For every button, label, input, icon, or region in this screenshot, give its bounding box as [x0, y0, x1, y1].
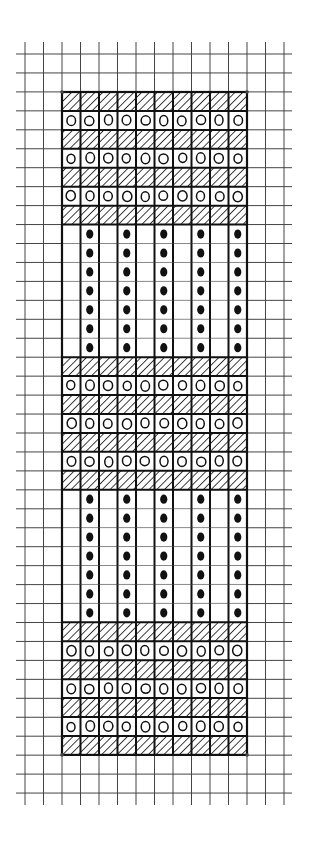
filled-dot-icon — [123, 514, 130, 523]
hatch-cell — [62, 357, 81, 376]
hatch-cell — [99, 471, 118, 490]
filled-dot-icon — [197, 343, 204, 352]
hatch-cell — [210, 660, 229, 679]
corner-marker — [60, 90, 64, 94]
filled-dot-icon — [197, 305, 204, 314]
filled-dot-icon — [234, 495, 241, 504]
hatch-cell — [81, 471, 100, 490]
hatch-cell — [155, 168, 174, 187]
filled-dot-icon — [123, 267, 130, 276]
filled-dot-icon — [123, 324, 130, 333]
filled-dot-icon — [197, 267, 204, 276]
hatch-cell — [192, 698, 211, 717]
hatch-cell — [173, 130, 192, 149]
filled-dot-icon — [160, 324, 167, 333]
stitch-chart — [0, 0, 310, 847]
hatch-cell — [118, 206, 137, 225]
hatch-cell — [229, 433, 248, 452]
filled-dot-icon — [197, 570, 204, 579]
hatch-cell — [62, 395, 81, 414]
hatch-cell — [173, 660, 192, 679]
hatch-cell — [136, 736, 155, 755]
hatch-cell — [118, 130, 137, 149]
hatch-cell — [62, 168, 81, 187]
filled-dot-icon — [123, 305, 130, 314]
hatch-cell — [210, 698, 229, 717]
filled-dot-icon — [123, 495, 130, 504]
filled-dot-icon — [160, 305, 167, 314]
filled-dot-icon — [197, 286, 204, 295]
hatch-cell — [155, 206, 174, 225]
hatch-cell — [81, 622, 100, 641]
hatch-cell — [229, 130, 248, 149]
filled-dot-icon — [160, 570, 167, 579]
filled-dot-icon — [197, 229, 204, 238]
hatch-cell — [173, 357, 192, 376]
hatch-cell — [62, 471, 81, 490]
hatch-cell — [210, 622, 229, 641]
filled-dot-icon — [86, 305, 93, 314]
hatch-cell — [155, 736, 174, 755]
hatch-cell — [192, 130, 211, 149]
hatch-cell — [229, 698, 248, 717]
hatch-cell — [62, 130, 81, 149]
hatch-cell — [99, 168, 118, 187]
filled-dot-icon — [234, 324, 241, 333]
filled-dot-icon — [234, 229, 241, 238]
hatch-cell — [192, 471, 211, 490]
hatch-cell — [192, 660, 211, 679]
hatch-cell — [136, 433, 155, 452]
hatch-cell — [192, 622, 211, 641]
filled-dot-icon — [160, 608, 167, 617]
hatch-cell — [210, 92, 229, 111]
hatch-cell — [229, 736, 248, 755]
hatch-cell — [229, 357, 248, 376]
corner-marker — [245, 90, 249, 94]
hatch-cell — [229, 395, 248, 414]
hatch-cell — [173, 698, 192, 717]
filled-dot-icon — [197, 248, 204, 257]
filled-dot-icon — [86, 324, 93, 333]
hatch-cell — [99, 433, 118, 452]
hatch-cell — [62, 736, 81, 755]
hatch-cell — [136, 130, 155, 149]
hatch-cell — [210, 433, 229, 452]
hatch-cell — [81, 433, 100, 452]
hatch-cell — [192, 736, 211, 755]
hatch-cell — [62, 92, 81, 111]
hatch-cell — [192, 357, 211, 376]
filled-dot-icon — [234, 532, 241, 541]
hatch-cell — [118, 395, 137, 414]
filled-dot-icon — [160, 286, 167, 295]
filled-dot-icon — [234, 514, 241, 523]
hatch-cell — [136, 698, 155, 717]
hatch-cell — [136, 395, 155, 414]
filled-dot-icon — [123, 589, 130, 598]
corner-marker — [245, 753, 249, 757]
corner-marker — [60, 753, 64, 757]
hatch-cell — [99, 395, 118, 414]
filled-dot-icon — [160, 495, 167, 504]
filled-dot-icon — [234, 305, 241, 314]
hatch-cell — [136, 357, 155, 376]
hatch-cell — [118, 698, 137, 717]
filled-dot-icon — [123, 608, 130, 617]
hatch-cell — [155, 660, 174, 679]
hatch-cell — [118, 357, 137, 376]
hatch-cell — [118, 433, 137, 452]
hatch-cell — [118, 92, 137, 111]
filled-dot-icon — [86, 267, 93, 276]
filled-dot-icon — [234, 248, 241, 257]
hatch-cell — [81, 698, 100, 717]
filled-dot-icon — [123, 248, 130, 257]
filled-dot-icon — [86, 343, 93, 352]
filled-dot-icon — [86, 229, 93, 238]
hatch-cell — [210, 357, 229, 376]
hatch-cell — [210, 130, 229, 149]
filled-dot-icon — [197, 514, 204, 523]
filled-dot-icon — [123, 343, 130, 352]
hatch-cell — [118, 471, 137, 490]
filled-dot-icon — [86, 570, 93, 579]
hatch-cell — [192, 92, 211, 111]
hatch-cell — [192, 433, 211, 452]
